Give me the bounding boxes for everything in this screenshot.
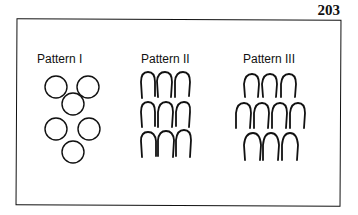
arch-icon [158,131,174,157]
arch-icon [263,133,279,160]
arch-icon [272,103,287,128]
arch-icon [290,103,305,128]
arch-icon [141,102,155,127]
arch-icon [281,74,296,97]
arch-icon [176,130,191,157]
circle-icon [78,118,100,140]
arch-icon [282,133,298,160]
pattern-3-arches [236,74,305,160]
circle-icon [62,141,84,163]
circle-icon [77,76,99,98]
arch-icon [262,74,277,97]
arch-icon [175,72,190,97]
pattern-1-circles [45,76,100,163]
circle-icon [45,118,67,140]
arch-icon [254,103,269,128]
arch-icon [141,132,156,157]
arch-icon [141,72,155,98]
circle-icon [62,93,84,115]
arch-icon [176,102,190,127]
arch-icon [158,102,173,127]
arch-icon [157,72,172,97]
circle-icon [45,76,67,98]
arch-icon [244,133,261,160]
pattern-2-arches [141,72,191,157]
arch-icon [244,74,259,97]
pattern-diagram [0,0,358,215]
arch-icon [236,103,251,128]
